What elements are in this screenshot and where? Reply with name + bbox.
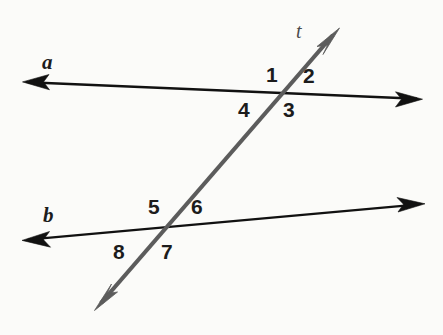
angle-label-7: 7	[161, 241, 173, 262]
transversal-t-segment	[101, 35, 333, 303]
angle-label-1: 1	[266, 64, 278, 85]
angle-label-3: 3	[283, 99, 295, 120]
angle-label-4: 4	[238, 99, 250, 120]
line-label-t: t	[296, 21, 302, 41]
angle-label-2: 2	[303, 65, 315, 86]
line-label-a: a	[42, 52, 53, 73]
line-label-b: b	[43, 205, 54, 226]
geometry-canvas	[0, 0, 443, 335]
geometry-diagram: a b t 1 2 3 4 5 6 7 8	[0, 0, 443, 335]
angle-label-8: 8	[113, 241, 125, 262]
line-a-right-arrowhead	[396, 92, 423, 107]
line-b	[22, 198, 425, 248]
line-b-right-arrowhead	[397, 198, 425, 213]
angle-label-5: 5	[148, 196, 160, 217]
line-b-left-arrowhead	[22, 232, 51, 248]
line-a	[23, 75, 423, 108]
line-a-segment	[28, 82, 417, 99]
line-b-segment	[28, 204, 419, 239]
angle-label-6: 6	[191, 196, 203, 217]
